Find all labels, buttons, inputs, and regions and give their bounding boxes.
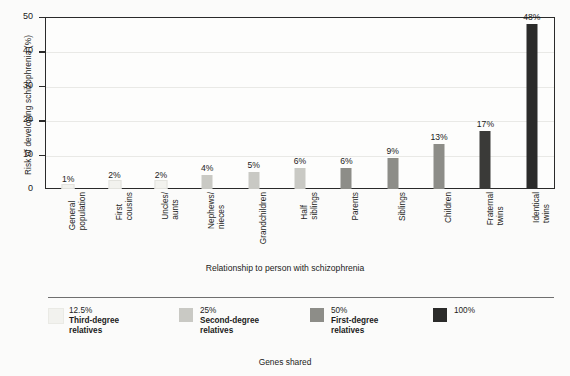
legend: 12.5%Third-degreerelatives25%Second-degr… <box>48 307 554 349</box>
x-category: Halfsiblings <box>277 192 323 258</box>
y-tick-label: 40 <box>7 45 33 55</box>
bar <box>154 180 167 189</box>
x-category: Parents <box>323 192 369 258</box>
bar-value-label: 6% <box>294 156 306 166</box>
x-category-label: Nephews/nieces <box>207 192 226 229</box>
bar-slot: 6% <box>323 17 369 189</box>
y-tick-label: 50 <box>7 11 33 21</box>
legend-title: Genes shared <box>0 357 570 367</box>
legend-divider <box>48 297 554 298</box>
y-axis-title: Risk of developing schizophrenia (%) <box>23 15 33 195</box>
x-category-label: Fraternaltwins <box>486 192 505 225</box>
bar <box>434 144 445 189</box>
bar <box>294 168 305 189</box>
y-tick-label: 30 <box>7 80 33 90</box>
bar-value-label: 13% <box>430 132 447 142</box>
bar-value-label: 2% <box>108 170 120 180</box>
x-category: Siblings <box>370 192 416 258</box>
bar-value-label: 2% <box>155 170 167 180</box>
bar <box>108 180 121 189</box>
bar-slot: 13% <box>416 17 462 189</box>
x-category: Identicaltwins <box>509 192 555 258</box>
x-category-label: Generalpopulation <box>68 192 87 230</box>
bar <box>480 131 491 189</box>
bar-value-label: 4% <box>201 163 213 173</box>
x-category: Fraternaltwins <box>462 192 508 258</box>
x-category: Generalpopulation <box>45 192 91 258</box>
x-category: Grandchildren <box>230 192 276 258</box>
bar-slot: 17% <box>462 17 508 189</box>
legend-label: 100% <box>454 306 475 316</box>
bar-value-label: 9% <box>386 146 398 156</box>
y-tick-label: 10 <box>7 149 33 159</box>
bar <box>248 172 259 189</box>
bar-slot: 5% <box>230 17 276 189</box>
x-category-label: Children <box>444 192 454 223</box>
x-category: Nephews/nieces <box>184 192 230 258</box>
bar-slot: 9% <box>370 17 416 189</box>
x-category: Firstcousins <box>91 192 137 258</box>
bar-slot: 6% <box>277 17 323 189</box>
bar-slot: 48% <box>509 17 555 189</box>
x-category-label: Firstcousins <box>115 192 134 220</box>
legend-swatch <box>48 308 64 324</box>
x-category: Children <box>416 192 462 258</box>
bar-slot: 4% <box>184 17 230 189</box>
x-category-label: Identicaltwins <box>532 192 551 223</box>
bar-value-label: 5% <box>247 160 259 170</box>
legend-label: 25%Second-degreerelatives <box>200 306 259 335</box>
legend-swatch <box>310 308 324 322</box>
bar-value-label: 1% <box>62 174 74 184</box>
x-axis-categories: GeneralpopulationFirstcousinsUncles/aunt… <box>45 192 555 258</box>
x-category: Uncles/aunts <box>138 192 184 258</box>
legend-label: 50%First-degreerelatives <box>331 306 378 335</box>
x-category-label: Uncles/aunts <box>161 192 180 220</box>
bar-slot: 1% <box>45 17 91 189</box>
x-category-label: Grandchildren <box>259 192 269 244</box>
bar-slot: 2% <box>91 17 137 189</box>
y-tick-label: 20 <box>7 114 33 124</box>
x-category-label: Parents <box>351 192 361 221</box>
x-axis-title: Relationship to person with schizophreni… <box>0 263 570 273</box>
legend-label: 12.5%Third-degreerelatives <box>69 306 119 335</box>
bar-value-label: 48% <box>523 12 540 22</box>
x-category-label: Siblings <box>398 192 408 221</box>
bar <box>387 158 398 189</box>
bar <box>202 175 213 189</box>
bar <box>62 184 75 189</box>
bar-value-label: 6% <box>340 156 352 166</box>
x-category-label: Halfsiblings <box>300 192 319 220</box>
legend-swatch <box>433 308 447 322</box>
legend-swatch <box>179 308 193 322</box>
chart-root: Risk of developing schizophrenia (%) 010… <box>0 0 570 376</box>
bar <box>526 24 537 189</box>
bar <box>341 168 352 189</box>
bar-series: 1%2%2%4%5%6%6%9%13%17%48% <box>45 17 555 189</box>
bar-value-label: 17% <box>477 119 494 129</box>
bar-slot: 2% <box>138 17 184 189</box>
y-tick-label: 0 <box>7 183 33 193</box>
